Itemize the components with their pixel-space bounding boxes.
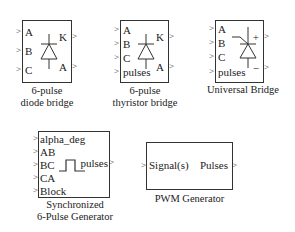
caption-line: PWM Generator <box>146 193 233 205</box>
input-port-arrow[interactable]: > <box>33 134 38 143</box>
input-port-label: C <box>25 65 32 76</box>
input-port-label: B <box>25 46 32 57</box>
output-port-label: K <box>59 32 67 43</box>
caption-line: 6-pulse <box>12 85 82 97</box>
input-port-arrow[interactable]: > <box>209 24 214 33</box>
diode-icon <box>39 34 59 70</box>
input-port-arrow[interactable]: > <box>209 52 214 61</box>
output-port-label: Pulses <box>200 160 228 171</box>
caption-line: thyristor bridge <box>104 97 186 109</box>
universal-bridge-block[interactable]: A B C pulses + − <box>215 20 264 83</box>
input-port-label: AB <box>40 147 55 158</box>
block-caption: PWM Generator <box>146 193 233 205</box>
caption-line: Synchronized <box>20 199 130 211</box>
output-port-arrow[interactable]: > <box>264 63 269 72</box>
block-caption: Universal Bridge <box>198 84 288 96</box>
input-port-arrow[interactable]: > <box>33 173 38 182</box>
output-port-label: A <box>156 62 164 73</box>
output-port-label: K <box>156 32 164 43</box>
input-port-arrow[interactable]: > <box>114 53 119 62</box>
block-caption: 6-pulse thyristor bridge <box>104 85 186 109</box>
pwm-generator-block[interactable]: Signal(s) Pulses <box>146 142 233 190</box>
input-port-label: alpha_deg <box>40 134 85 145</box>
input-port-arrow[interactable]: > <box>16 27 21 36</box>
input-port-label: Block <box>40 186 66 197</box>
input-port-arrow[interactable]: > <box>114 25 119 34</box>
input-port-label: BC <box>40 160 55 171</box>
input-port-label: CA <box>40 173 55 184</box>
output-port-arrow[interactable]: > <box>169 32 174 41</box>
input-port-arrow[interactable]: > <box>33 147 38 156</box>
block-caption: 6-pulse diode bridge <box>12 85 82 109</box>
input-port-arrow[interactable]: > <box>141 161 146 170</box>
input-port-label: A <box>123 25 131 36</box>
input-port-label: C <box>123 53 130 64</box>
caption-line: diode bridge <box>12 97 82 109</box>
input-port-arrow[interactable]: > <box>33 160 38 169</box>
output-port-arrow[interactable]: > <box>72 32 77 41</box>
thyristor-icon <box>136 34 156 70</box>
output-port-arrow[interactable]: > <box>109 158 114 167</box>
sync-pulse-generator-block[interactable]: alpha_deg AB BC CA Block pulses <box>38 131 110 198</box>
input-port-arrow[interactable]: > <box>209 67 214 76</box>
block-caption: Synchronized 6-Pulse Generator <box>20 199 130 223</box>
input-port-label: C <box>218 52 225 63</box>
input-port-label: A <box>25 27 33 38</box>
input-port-arrow[interactable]: > <box>33 186 38 195</box>
input-port-label: B <box>123 39 130 50</box>
output-port-label: A <box>59 62 67 73</box>
caption-line: 6-Pulse Generator <box>20 211 130 223</box>
pulse-waveform-icon <box>59 159 85 173</box>
input-port-arrow[interactable]: > <box>16 46 21 55</box>
input-port-label: Signal(s) <box>149 160 189 171</box>
output-port-arrow[interactable]: > <box>232 161 237 170</box>
output-port-arrow[interactable]: > <box>72 62 77 71</box>
gto-thyristor-icon <box>230 27 258 69</box>
output-port-arrow[interactable]: > <box>264 32 269 41</box>
input-port-arrow[interactable]: > <box>16 65 21 74</box>
caption-line: 6-pulse <box>104 85 186 97</box>
input-port-label: A <box>218 24 226 35</box>
diode-bridge-block[interactable]: A B C K A <box>22 20 72 83</box>
caption-line: Universal Bridge <box>198 84 288 96</box>
input-port-arrow[interactable]: > <box>114 67 119 76</box>
thyristor-bridge-block[interactable]: A B C pulses K A <box>120 20 169 83</box>
input-port-label: B <box>218 38 225 49</box>
input-port-arrow[interactable]: > <box>209 38 214 47</box>
input-port-arrow[interactable]: > <box>114 39 119 48</box>
output-port-arrow[interactable]: > <box>169 62 174 71</box>
